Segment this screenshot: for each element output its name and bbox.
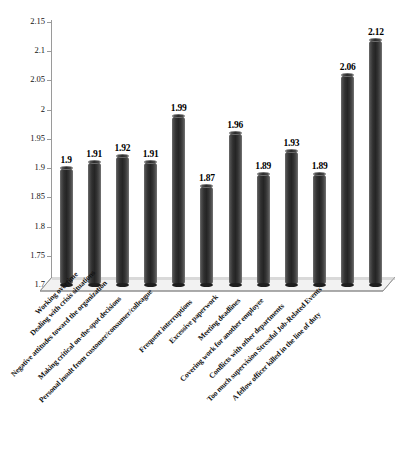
- bar-group[interactable]: 1.92: [109, 22, 135, 285]
- bar-value-label: 1.96: [227, 121, 243, 131]
- bar-value-label: 1.89: [312, 162, 328, 172]
- bar-group[interactable]: 1.9: [53, 22, 79, 285]
- y-axis-tick-label: 2.1: [0, 45, 45, 55]
- bar-value-label: 2.12: [368, 28, 384, 38]
- y-axis-tick-label: 1.85: [0, 191, 45, 201]
- bar-group[interactable]: 1.91: [81, 22, 107, 285]
- bar-group[interactable]: 1.96: [222, 22, 248, 285]
- bar-cylinder[interactable]: [257, 174, 270, 285]
- bar-cylinder[interactable]: [313, 174, 326, 285]
- y-axis-tick-label: 2.15: [0, 16, 45, 26]
- bar-value-label: 1.87: [199, 174, 215, 184]
- bar-value-label: 1.93: [283, 139, 299, 149]
- bar-group[interactable]: 1.99: [166, 22, 192, 285]
- bar-group[interactable]: 1.93: [278, 22, 304, 285]
- bar-value-label: 1.92: [114, 144, 130, 154]
- y-axis-tick-label: 1.95: [0, 133, 45, 143]
- y-axis-tick-label: 2.05: [0, 74, 45, 84]
- bar-group[interactable]: 1.87: [194, 22, 220, 285]
- bar-cylinder[interactable]: [369, 40, 382, 285]
- bar-group[interactable]: 1.91: [138, 22, 164, 285]
- bar-cylinder[interactable]: [88, 162, 101, 285]
- bar-cylinder[interactable]: [200, 186, 213, 285]
- bars-container: 1.91.911.921.911.991.871.961.891.931.892…: [52, 22, 390, 285]
- bar-value-label: 1.89: [255, 162, 271, 172]
- y-axis-tick-label: 1.7: [0, 279, 45, 289]
- bar-cylinder[interactable]: [144, 162, 157, 285]
- y-axis-tick-label: 1.9: [0, 162, 45, 172]
- y-axis-tick-label: 2: [0, 104, 45, 114]
- bar-value-label: 1.91: [143, 150, 159, 160]
- y-axis-tick-label: 1.8: [0, 221, 45, 231]
- bar-group[interactable]: 2.12: [363, 22, 389, 285]
- bar-cylinder[interactable]: [285, 151, 298, 285]
- bar-group[interactable]: 1.89: [250, 22, 276, 285]
- bar-cylinder[interactable]: [341, 75, 354, 285]
- bar-value-label: 2.06: [340, 63, 356, 73]
- bar-cylinder[interactable]: [172, 116, 185, 285]
- y-axis-tick-label: 1.75: [0, 250, 45, 260]
- bar-group[interactable]: 2.06: [335, 22, 361, 285]
- bar-cylinder[interactable]: [229, 133, 242, 285]
- bar-value-label: 1.9: [60, 156, 71, 166]
- bar-cylinder[interactable]: [60, 168, 73, 285]
- bar-cylinder[interactable]: [116, 156, 129, 285]
- bar-chart: 1.71.751.81.851.91.9522.052.12.15 1.91.9…: [0, 0, 403, 454]
- bar-value-label: 1.99: [171, 104, 187, 114]
- bar-value-label: 1.91: [86, 150, 102, 160]
- bar-group[interactable]: 1.89: [307, 22, 333, 285]
